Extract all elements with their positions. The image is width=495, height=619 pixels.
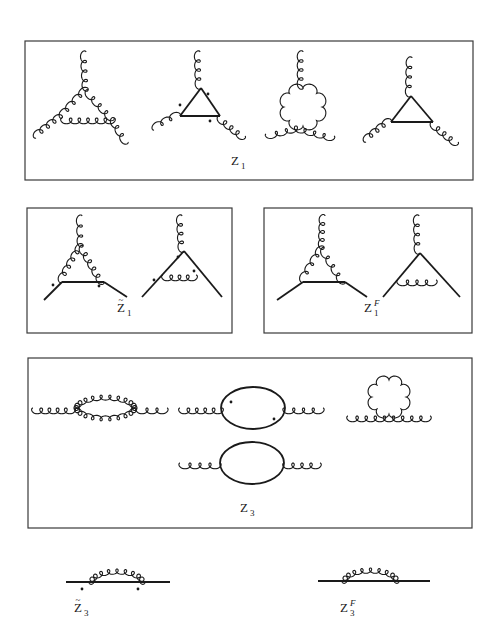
gluon-line [33, 115, 62, 139]
gluon-line [162, 275, 198, 281]
gluon-line [430, 122, 458, 146]
fermion-line [383, 253, 420, 297]
Z1-ghost-triangle [152, 51, 246, 140]
ghost-dot-marker [207, 93, 210, 96]
label-subscript: 1 [374, 308, 379, 318]
gluon-line [265, 126, 297, 139]
Z1-fermion-triangle [363, 57, 458, 146]
ghost-dot-marker [209, 120, 212, 123]
label-superscript: F [349, 598, 356, 608]
label-superscript: F [373, 298, 380, 308]
Z1-four-gluon-tadpole [265, 51, 335, 141]
label-subscript: 1 [127, 308, 132, 318]
fermion-line [201, 88, 220, 116]
Z3-gluon-bubble [32, 395, 169, 421]
Z1F-fermion-vertex [383, 215, 460, 297]
label-text: Z [240, 500, 248, 515]
label-Z3-tilde: Z~3 [74, 595, 89, 618]
Z3-box [28, 358, 472, 528]
Z1F-gluon-triangle [277, 215, 367, 300]
ghost-dot-marker [52, 284, 55, 287]
fermion-loop [220, 442, 284, 484]
Z3-ghost-bubble [179, 387, 325, 429]
label-text: Z [364, 300, 372, 315]
fermion-line [180, 88, 201, 116]
ghost-dot-marker [153, 279, 156, 282]
label-Z1-tilde: Z~1 [117, 295, 132, 318]
ghost-dot-marker [273, 418, 276, 421]
gluon-loop [280, 84, 326, 130]
gluon-line [152, 112, 181, 130]
label-Z1: Z1 [231, 153, 246, 171]
gluon-line [85, 90, 114, 121]
gluon-line [32, 408, 76, 414]
Z3F-quark-self-energy [318, 568, 430, 583]
gluon-line [297, 51, 303, 90]
gluon-line [179, 463, 221, 469]
gluon-line [179, 408, 224, 414]
ghost-dot-marker [193, 270, 196, 273]
fermion-line [420, 253, 460, 297]
gluon-line [81, 51, 89, 91]
gluon-line [194, 51, 201, 90]
gluon-line [283, 463, 322, 469]
label-subscript: 3 [250, 508, 255, 518]
Z3tilde-ghost-self-energy [66, 569, 170, 590]
ghost-dot-marker [81, 588, 84, 591]
label-text: Z [231, 153, 239, 168]
fermion-line [345, 282, 367, 297]
gluon-line [136, 408, 168, 414]
gluon-line [110, 117, 128, 144]
ghost-dot-marker [137, 588, 140, 591]
gluon-line [321, 248, 346, 285]
gluon-line [217, 116, 245, 140]
gluon-loop [368, 376, 410, 418]
fermion-line [104, 282, 127, 297]
gluon-line [74, 395, 137, 410]
gluon-line [76, 215, 83, 247]
gluon-line [413, 215, 420, 254]
fermion-line [184, 251, 222, 297]
gluon-line [397, 280, 437, 286]
fermion-loop [221, 387, 285, 429]
label-Z3: Z3 [240, 500, 255, 518]
fermion-line [411, 96, 433, 122]
tilde-mark: ~ [76, 595, 81, 605]
Z1tilde-ghost-vertex [142, 215, 222, 297]
ghost-dot-marker [98, 285, 101, 288]
label-Z3-F: ZF3 [340, 598, 356, 618]
Z3-quark-bubble [179, 442, 321, 484]
gluon-line [363, 119, 391, 143]
label-Z1-F: ZF1 [364, 298, 380, 318]
gluon-line [74, 406, 137, 421]
label-subscript: 1 [241, 161, 246, 171]
gluon-line [318, 215, 325, 250]
label-subscript: 3 [350, 608, 355, 618]
gluon-line [283, 408, 324, 414]
tilde-mark: ~ [119, 295, 124, 305]
gluon-line [59, 87, 88, 118]
fermion-line [391, 96, 411, 122]
Z3-gluon-tadpole [347, 376, 432, 422]
Z1tilde-gluon-exchange [44, 215, 127, 300]
feynman-diagram-figure: Z1Z~1ZF1Z3Z~3ZF3 [0, 0, 495, 619]
fermion-line [277, 282, 303, 300]
gluon-line [405, 57, 412, 97]
ghost-dot-marker [230, 401, 233, 404]
gluon-line [79, 245, 104, 284]
gluon-line [177, 215, 185, 253]
label-subscript: 3 [84, 608, 89, 618]
Z1-three-gluon-loop [33, 51, 128, 144]
ghost-dot-marker [177, 256, 180, 259]
gluon-line [347, 416, 432, 422]
ghost-dot-marker [179, 104, 182, 107]
label-text: Z [340, 600, 348, 615]
labels: Z1Z~1ZF1Z3Z~3ZF3 [74, 153, 380, 618]
